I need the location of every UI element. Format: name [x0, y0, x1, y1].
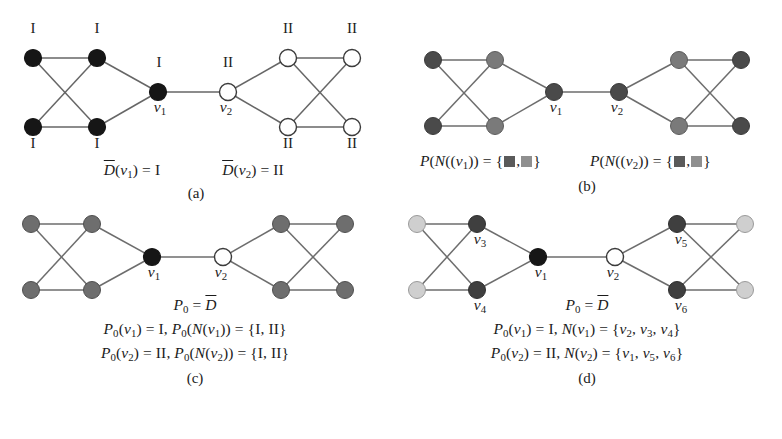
node-mid-gray — [487, 118, 504, 135]
panel-c-graph — [0, 207, 391, 307]
node-mid-gray — [84, 282, 101, 299]
swatch-light — [691, 156, 702, 167]
panel-c-edges — [31, 224, 345, 290]
node-filled — [89, 119, 106, 136]
node-dark-gray — [733, 52, 750, 69]
panel-a-graph — [0, 22, 391, 162]
node-mid-gray — [487, 52, 504, 69]
panel-b: v1 v2 P(N((v1)) = {,} P(N((v2)) = {,} (b… — [391, 22, 782, 197]
swatch-dark — [504, 156, 515, 167]
node-dark-gray — [425, 118, 442, 135]
panel-d-graph — [391, 207, 782, 307]
panel-c: v1 v2 P0 = D P0(v1) = I, P0(N(v1)) = {I,… — [0, 207, 391, 439]
node-dark-gray — [425, 52, 442, 69]
panel-d-formula-line1: P0(v1) = I, N(v1) = {v2, v3, v4} — [493, 320, 680, 339]
vertex-label-v2: v2 — [220, 98, 233, 117]
panel-c-formula-head: P0 = D — [173, 295, 216, 315]
node-light-gray — [409, 216, 426, 233]
node-hollow — [280, 50, 297, 67]
node-mid-gray — [273, 282, 290, 299]
vertex-label-v1: v1 — [535, 263, 548, 282]
node-hollow — [344, 50, 361, 67]
node-mid-gray — [23, 282, 40, 299]
class-label-II: II — [347, 20, 357, 37]
node-mid-gray — [671, 118, 688, 135]
panel-b-caption: (b) — [578, 178, 596, 195]
class-label-II: II — [283, 20, 293, 37]
vertex-label-v2: v2 — [607, 263, 620, 282]
node-mid-gray — [84, 216, 101, 233]
node-light-gray — [409, 282, 426, 299]
panel-a-edges — [33, 58, 352, 127]
panel-a-formula-right: D(v2) = II — [222, 160, 284, 180]
panel-c-formula-line1: P0(v1) = I, P0(N(v1)) = {I, II} — [104, 320, 287, 339]
node-filled — [25, 50, 42, 67]
class-label-II: II — [283, 135, 293, 152]
class-label-I: I — [94, 135, 99, 152]
node-filled — [25, 119, 42, 136]
vertex-label-v2: v2 — [215, 263, 228, 282]
panel-d-caption: (d) — [578, 370, 596, 387]
panel-c-caption: (c) — [187, 370, 204, 387]
class-label-I: I — [30, 135, 35, 152]
panel-d-formula-head: P0 = D — [565, 295, 608, 315]
node-light-gray — [737, 282, 754, 299]
figure-canvas: I I I I I II II II II II v1 v2 D(v1) = I… — [0, 0, 782, 439]
class-label-I: I — [30, 20, 35, 37]
node-hollow — [344, 119, 361, 136]
panel-d: v3 v4 v1 v2 v5 v6 P0 = D P0(v1) = I, N(v… — [391, 207, 782, 439]
vertex-label-v4: v4 — [474, 296, 487, 315]
panel-a-formula-left: D(v1) = I — [104, 160, 160, 180]
vertex-label-v3: v3 — [474, 230, 487, 249]
panel-b-graph — [391, 22, 782, 162]
node-mid-gray — [337, 216, 354, 233]
panel-b-nodes — [425, 52, 750, 135]
vertex-label-v6: v6 — [675, 296, 688, 315]
panel-c-formula-line2: P0(v2) = II, P0(N(v2)) = {I, II} — [101, 344, 289, 363]
node-light-gray — [737, 216, 754, 233]
vertex-label-v5: v5 — [675, 230, 688, 249]
vertex-label-v1: v1 — [154, 98, 167, 117]
panel-b-formula-left: P(N((v1)) = {,} — [420, 152, 541, 171]
node-filled — [89, 50, 106, 67]
panel-a-nodes-right — [220, 50, 361, 136]
panel-a-caption: (a) — [188, 185, 205, 202]
panel-d-formula-line2: P0(v2) = II, N(v2) = {v1, v5, v6} — [491, 344, 683, 363]
class-label-I-hub: I — [156, 54, 161, 71]
node-mid-gray — [273, 216, 290, 233]
node-dark-gray — [733, 118, 750, 135]
panel-b-formula-right: P(N((v2)) = {,} — [590, 152, 711, 171]
node-mid-gray — [23, 216, 40, 233]
vertex-label-v1: v1 — [550, 98, 563, 117]
class-label-I: I — [94, 20, 99, 37]
node-mid-gray — [671, 52, 688, 69]
class-label-II-hub: II — [223, 54, 233, 71]
vertex-label-v1: v1 — [148, 263, 161, 282]
panel-a: I I I I I II II II II II v1 v2 D(v1) = I… — [0, 22, 391, 197]
panel-d-edges — [417, 224, 745, 290]
swatch-dark — [674, 156, 685, 167]
class-label-II: II — [347, 135, 357, 152]
swatch-light — [521, 156, 532, 167]
vertex-label-v2: v2 — [611, 98, 624, 117]
cropped-text-row-top — [0, 0, 782, 3]
node-hollow — [280, 119, 297, 136]
node-mid-gray — [337, 282, 354, 299]
panel-a-nodes-left — [25, 50, 167, 136]
panel-b-edges — [433, 60, 741, 126]
